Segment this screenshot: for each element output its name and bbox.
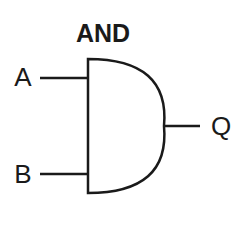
input-b-label: B <box>14 159 31 189</box>
and-gate-symbol <box>88 59 164 193</box>
output-q-label: Q <box>211 111 231 141</box>
gate-title: AND <box>76 19 130 47</box>
input-a-label: A <box>14 62 32 92</box>
and-gate-diagram: AND A B Q <box>0 0 247 229</box>
gate-body <box>88 59 164 193</box>
